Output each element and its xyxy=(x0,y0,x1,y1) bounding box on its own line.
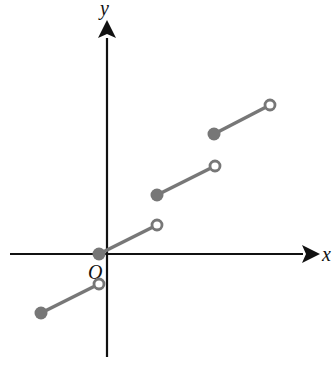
open-dot xyxy=(265,100,275,110)
filled-dot xyxy=(151,189,164,202)
y-axis-arrow-icon xyxy=(98,20,116,38)
filled-dot xyxy=(208,128,221,141)
filled-dot xyxy=(35,307,48,320)
open-dot xyxy=(152,220,162,230)
x-axis-arrow-icon xyxy=(302,245,320,263)
open-dot xyxy=(94,279,104,289)
step-function-graph: x y O xyxy=(0,0,334,367)
y-axis xyxy=(98,20,116,357)
x-axis-label: x xyxy=(321,243,331,265)
open-dot xyxy=(210,161,220,171)
segment-3 xyxy=(151,161,221,202)
segment-4 xyxy=(208,100,276,141)
x-axis xyxy=(10,245,320,263)
filled-dot xyxy=(93,248,106,261)
y-axis-label: y xyxy=(98,0,109,20)
segment-1 xyxy=(35,279,105,320)
